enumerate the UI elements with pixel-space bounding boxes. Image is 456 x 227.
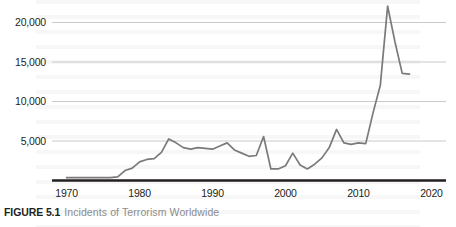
incidents-line-chart — [0, 0, 456, 200]
y-axis-tick-label: 20,000 — [0, 17, 46, 28]
x-axis-tick-label: 2020 — [411, 188, 451, 199]
x-axis-tick-label: 2010 — [338, 188, 378, 199]
figure-title: Incidents of Terrorism Worldwide — [64, 206, 219, 218]
chart-plot-area — [0, 0, 456, 200]
series-line-group — [67, 6, 410, 177]
y-axis-tick-label: 5,000 — [0, 136, 46, 147]
figure-caption: FIGURE 5.1Incidents of Terrorism Worldwi… — [4, 205, 219, 219]
y-axis-tick-label: 10,000 — [0, 96, 46, 107]
x-axis-tick-label: 1990 — [193, 188, 233, 199]
gridlines — [52, 23, 446, 142]
x-axis-tick-label: 1970 — [47, 188, 87, 199]
y-axis-tick-label: 15,000 — [0, 57, 46, 68]
x-axis-tick-label: 1980 — [120, 188, 160, 199]
figure-container: 197019801990200020102020 FIGURE 5.1Incid… — [0, 0, 456, 227]
x-axis-tick-label: 2000 — [265, 188, 305, 199]
data-line — [67, 6, 410, 177]
figure-number: FIGURE 5.1 — [4, 206, 60, 218]
